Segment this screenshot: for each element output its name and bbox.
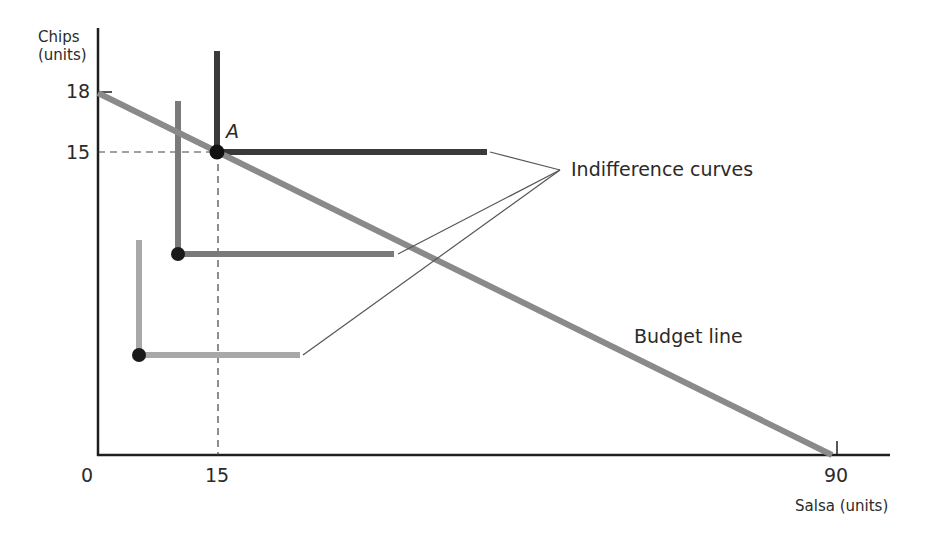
budget-line-label: Budget line xyxy=(634,325,743,347)
budget-line xyxy=(98,93,832,455)
y-axis-title: Chips (units) xyxy=(38,28,87,64)
point-lowest-marker xyxy=(132,348,146,362)
point-middle-marker xyxy=(171,247,185,261)
chart-canvas xyxy=(0,0,935,540)
y-axis-title-line1: Chips xyxy=(38,28,87,46)
point-a-marker xyxy=(210,145,225,160)
y-axis-title-line2: (units) xyxy=(38,46,87,64)
x-tick-90: 90 xyxy=(824,464,848,486)
x-tick-15: 15 xyxy=(205,464,229,486)
indifference-curve-highest xyxy=(217,51,487,152)
indifference-curves-label: Indifference curves xyxy=(571,158,753,180)
y-tick-18: 18 xyxy=(66,80,90,102)
x-axis-title: Salsa (units) xyxy=(795,497,888,515)
indifference-curve-middle xyxy=(178,101,394,254)
y-tick-15: 15 xyxy=(66,141,90,163)
x-tick-0: 0 xyxy=(81,464,93,486)
point-a-label: A xyxy=(226,120,239,142)
indifference-curve-lowest xyxy=(139,240,300,355)
